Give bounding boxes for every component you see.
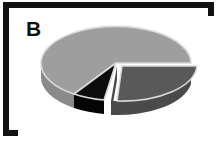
slice-top-segment-2 — [117, 66, 197, 101]
pie-chart-plot-area: B — [18, 16, 217, 138]
panel-border-frame: B — [3, 2, 214, 136]
panel-label: B — [26, 18, 41, 39]
figure-panel: B — [0, 0, 219, 143]
pie-chart-3d — [18, 16, 217, 138]
